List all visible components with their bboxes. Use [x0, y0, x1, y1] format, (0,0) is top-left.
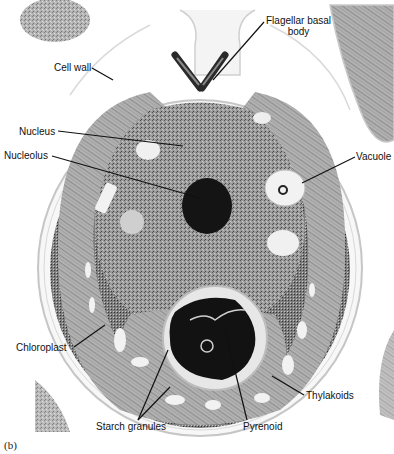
pyrenoid	[163, 286, 267, 390]
neighbor-cell-top-left	[20, 0, 90, 42]
label-chloroplast: Chloroplast	[16, 342, 67, 353]
label-thylakoids: Thylakoids	[306, 390, 354, 401]
label-pyrenoid: Pyrenoid	[243, 421, 282, 432]
label-nucleus: Nucleus	[19, 126, 55, 137]
label-vacuole: Vacuole	[356, 151, 391, 162]
panel-label: (b)	[4, 439, 17, 451]
label-nucleolus: Nucleolus	[4, 150, 48, 161]
nucleolus	[182, 178, 232, 234]
label-flagellar-line1: Flagellar basal	[266, 15, 331, 26]
label-flagellar-line2: body	[266, 26, 331, 37]
micrograph-figure: Flagellar basal body Cell wall Nucleus N…	[0, 0, 394, 454]
label-starch-granules: Starch granules	[96, 421, 166, 432]
neighbor-cell-bottom-right	[379, 330, 394, 420]
leader-cell-wall	[92, 68, 113, 80]
neighbor-cell-top-right	[330, 5, 394, 142]
label-flagellar-basal-body: Flagellar basal body	[266, 15, 331, 37]
neighbor-cell-bottom-left	[35, 380, 70, 432]
label-cell-wall: Cell wall	[54, 62, 91, 73]
